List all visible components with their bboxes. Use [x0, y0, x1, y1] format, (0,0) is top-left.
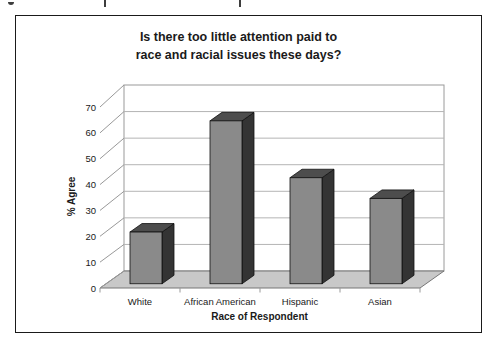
bar-african-american	[210, 121, 242, 284]
x-category-label: Hispanic	[282, 296, 319, 307]
y-tick	[100, 165, 124, 185]
y-axis-title: % Agree	[66, 157, 77, 237]
bar-side-white	[162, 224, 174, 284]
bar-chart-canvas: 010203040506070WhiteAfrican AmericanHisp…	[16, 16, 481, 332]
x-axis-title: Race of Respondent	[27, 311, 492, 322]
bar-side-hispanic	[322, 169, 334, 284]
y-tick	[100, 191, 124, 210]
y-tick	[100, 112, 124, 133]
y-tick	[100, 218, 124, 236]
y-tick	[100, 138, 124, 159]
cropped-letter-descender	[239, 0, 241, 7]
y-tick-label: 70	[85, 102, 96, 113]
bar-asian	[370, 198, 402, 283]
x-category-label: African American	[184, 296, 256, 307]
figure-box: Is there too little attention paid to ra…	[15, 15, 482, 333]
y-tick-label: 60	[85, 127, 96, 138]
cropped-letter-descender	[104, 0, 106, 7]
bar-side-african-american	[242, 112, 254, 283]
y-tick-label: 30	[85, 205, 96, 216]
x-category-label: Asian	[368, 296, 392, 307]
cropped-letter-descender	[8, 2, 14, 5]
y-tick-label: 20	[85, 231, 96, 242]
bar-white	[130, 232, 162, 284]
y-tick-label: 10	[85, 257, 96, 268]
bar-side-asian	[402, 190, 414, 284]
y-tick-label: 50	[85, 153, 96, 164]
y-tick	[100, 85, 124, 107]
y-tick-label: 0	[91, 283, 96, 294]
y-tick-label: 40	[85, 179, 96, 190]
bar-hispanic	[290, 178, 322, 284]
x-category-label: White	[128, 296, 152, 307]
y-tick	[100, 244, 124, 262]
